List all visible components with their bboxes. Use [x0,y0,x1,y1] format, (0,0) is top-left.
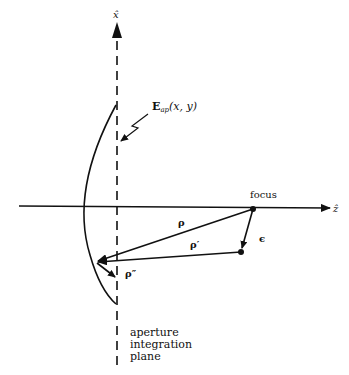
epsilon-label: ϵ [259,233,265,244]
rho-label: ρ [178,217,185,228]
plane-label-line-3: plane [130,350,161,363]
x-axis-arrowhead [112,22,122,38]
epsilon-vector [242,209,253,248]
rho-double-prime-label: ρ″ [125,268,137,279]
z-axis [19,206,330,208]
focus-label: focus [250,189,277,200]
x-axis-label: x̂ [113,9,119,20]
field-label: Eap(x, y) [152,100,197,114]
field-leader-line [121,114,148,141]
z-axis-label: ẑ [332,203,339,214]
rho-double-prime-vector [97,263,115,277]
aperture-diagram: ẑ x̂ Eap(x, y) focus ϵ ρ ρ′ ρ″ aperture … [0,0,349,375]
rho-prime-label: ρ′ [190,239,200,250]
